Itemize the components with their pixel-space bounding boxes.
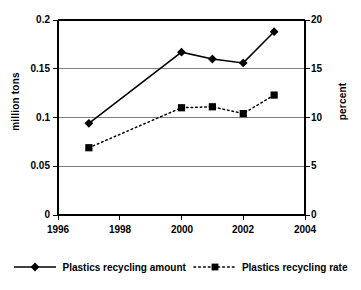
data-point-2001 [209,103,216,110]
y-axis-right-tick-marks [305,20,310,215]
legend-label-rate: Plastics recycling rate [242,262,348,273]
data-point-2002 [240,110,247,117]
chart-legend: Plastics recycling amount Plastics recyc… [0,255,361,279]
legend-label-amount: Plastics recycling amount [62,262,185,273]
legend-swatch-solid-diamond-icon [13,261,57,273]
plastics-recycling-chart: million tons percent 0.2 0.15 0.1 0.05 0… [0,0,361,290]
data-point-2001 [208,55,217,64]
legend-item-amount: Plastics recycling amount [13,261,185,273]
data-series-layer [84,27,278,151]
data-point-2003 [271,91,278,98]
legend-item-rate: Plastics recycling rate [193,261,348,273]
data-point-2000 [178,104,185,111]
y-axis-left-tick-marks [53,20,58,215]
data-point-1997 [85,144,92,151]
x-axis-tick-marks [58,215,305,220]
legend-swatch-dotted-square-icon [193,261,237,273]
series-1 [84,27,278,127]
plot-area [0,0,361,290]
series-2 [85,91,277,151]
gridlines [58,20,305,166]
